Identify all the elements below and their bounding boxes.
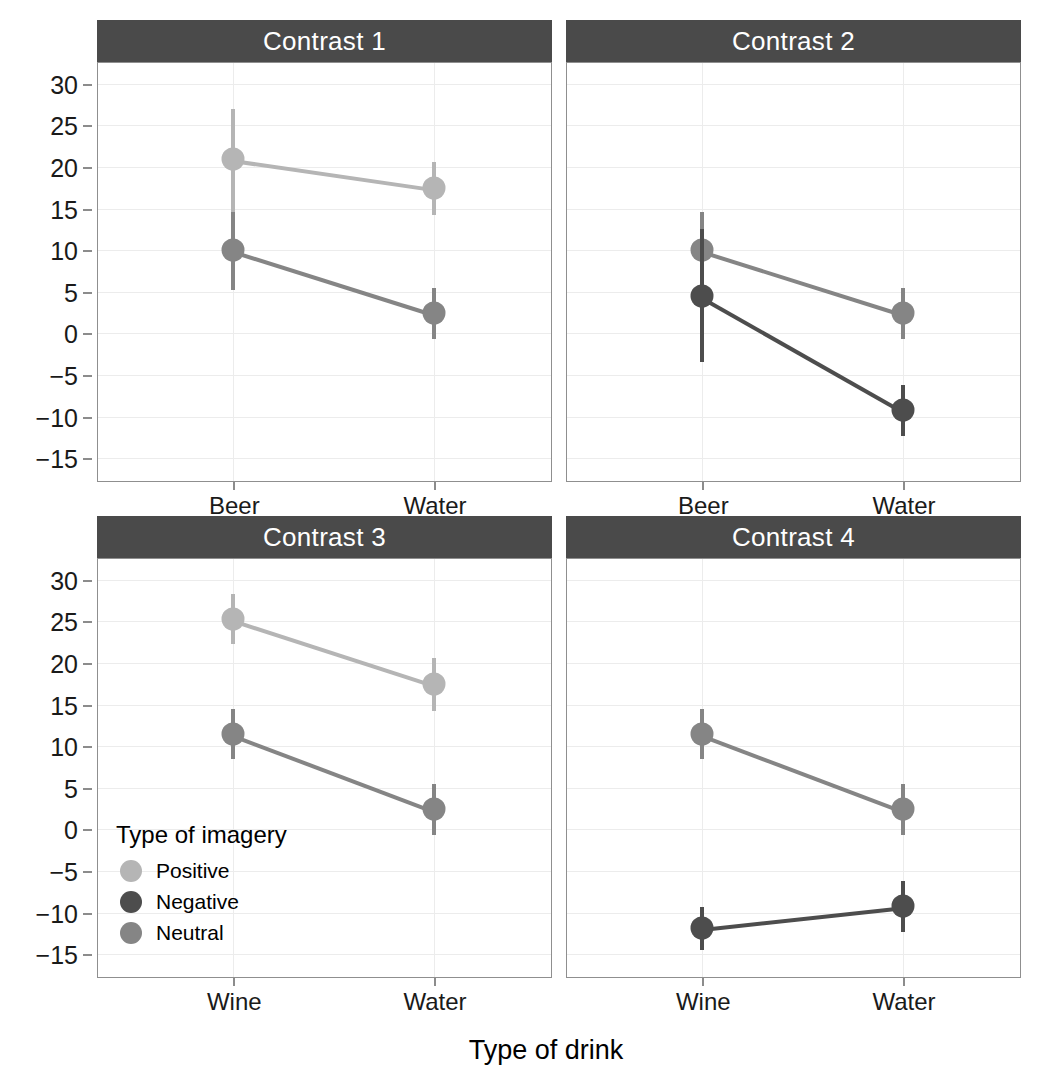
gridline-horizontal — [567, 663, 1020, 664]
gridline-horizontal — [567, 292, 1020, 293]
gridline-horizontal — [98, 375, 551, 376]
x-tick-label: Beer — [678, 492, 729, 520]
y-tick-label: 10 — [50, 733, 78, 762]
y-tick-mark — [83, 621, 92, 623]
y-tick-label: 5 — [64, 774, 78, 803]
data-point-neutral[interactable] — [422, 798, 445, 821]
data-point-neutral[interactable] — [891, 798, 914, 821]
gridline-horizontal — [567, 84, 1020, 85]
y-tick-mark — [83, 580, 92, 582]
y-tick-label: −10 — [36, 899, 78, 928]
x-axis-title: Type of drink — [46, 1032, 1046, 1068]
x-axis-labels: WineWater — [97, 982, 552, 1016]
x-axis-labels: WineWater — [566, 982, 1021, 1016]
x-tick-label: Water — [403, 988, 466, 1016]
gridline-horizontal — [98, 417, 551, 418]
x-tick-label: Beer — [209, 492, 260, 520]
y-tick-label: 25 — [50, 608, 78, 637]
data-point-negative[interactable] — [691, 916, 714, 939]
legend-key-swatch-icon — [116, 887, 146, 917]
x-tick-mark — [233, 482, 235, 490]
legend: Type of imageryPositiveNegativeNeutral — [116, 821, 287, 948]
gridline-horizontal — [98, 209, 551, 210]
gridline-horizontal — [98, 125, 551, 126]
facet-strip: Contrast 2 — [566, 20, 1021, 62]
y-tick-mark — [83, 788, 92, 790]
series-line-neutral — [232, 250, 434, 317]
legend-item-positive[interactable]: Positive — [116, 855, 287, 886]
x-tick-label: Water — [872, 988, 935, 1016]
facet-strip-label: Contrast 1 — [263, 26, 386, 57]
data-point-positive[interactable] — [222, 607, 245, 630]
gridline-horizontal — [567, 417, 1020, 418]
gridline-horizontal — [98, 84, 551, 85]
x-axis-labels: BeerWater — [97, 486, 552, 520]
y-tick-mark — [83, 913, 92, 915]
series-line-negative — [700, 296, 903, 413]
data-point-neutral[interactable] — [222, 722, 245, 745]
legend-item-label: Neutral — [156, 921, 224, 945]
gridline-horizontal — [567, 333, 1020, 334]
gridline-horizontal — [98, 663, 551, 664]
gridline-horizontal — [567, 871, 1020, 872]
gridline-horizontal — [567, 954, 1020, 955]
y-tick-mark — [83, 871, 92, 873]
gridline-horizontal — [567, 746, 1020, 747]
facet-strip: Contrast 1 — [97, 20, 552, 62]
legend-item-negative[interactable]: Negative — [116, 886, 287, 917]
gridline-horizontal — [98, 167, 551, 168]
x-tick-mark — [702, 482, 704, 490]
x-tick-label: Water — [872, 492, 935, 520]
y-tick-label: 15 — [50, 691, 78, 720]
gridline-horizontal — [567, 580, 1020, 581]
data-point-neutral[interactable] — [891, 302, 914, 325]
y-tick-label: 0 — [64, 816, 78, 845]
plot-area — [566, 558, 1021, 978]
data-point-neutral[interactable] — [422, 302, 445, 325]
legend-item-neutral[interactable]: Neutral — [116, 917, 287, 948]
gridline-horizontal — [567, 375, 1020, 376]
gridline-horizontal — [567, 829, 1020, 830]
legend-item-label: Negative — [156, 890, 239, 914]
x-tick-mark — [434, 978, 436, 986]
x-tick-label: Wine — [207, 988, 262, 1016]
legend-key-swatch-icon — [116, 918, 146, 948]
data-point-positive[interactable] — [422, 672, 445, 695]
y-tick-mark — [83, 746, 92, 748]
x-axis-labels: BeerWater — [566, 486, 1021, 520]
facet-strip: Contrast 4 — [566, 516, 1021, 558]
gridline-horizontal — [567, 788, 1020, 789]
data-point-negative[interactable] — [691, 284, 714, 307]
legend-key-swatch-icon — [116, 856, 146, 886]
series-line-neutral — [701, 250, 903, 317]
gridline-horizontal — [567, 167, 1020, 168]
y-tick-label: −5 — [49, 858, 78, 887]
x-tick-label: Water — [403, 492, 466, 520]
x-tick-mark — [434, 482, 436, 490]
chart-root: Mean attitude rating Type of drink 30252… — [0, 0, 1046, 1082]
gridline-horizontal — [98, 705, 551, 706]
gridline-horizontal — [567, 621, 1020, 622]
y-tick-mark — [83, 829, 92, 831]
data-point-positive[interactable] — [222, 147, 245, 170]
x-tick-mark — [702, 978, 704, 986]
data-point-negative[interactable] — [891, 398, 914, 421]
data-point-positive[interactable] — [422, 176, 445, 199]
data-point-neutral[interactable] — [691, 722, 714, 745]
data-point-neutral[interactable] — [222, 239, 245, 262]
gridline-horizontal — [98, 954, 551, 955]
gridline-horizontal — [98, 746, 551, 747]
y-tick-label: −15 — [36, 941, 78, 970]
gridline-vertical — [434, 63, 435, 481]
series-line-positive — [232, 619, 434, 688]
gridline-horizontal — [98, 458, 551, 459]
gridline-horizontal — [98, 788, 551, 789]
gridline-horizontal — [567, 125, 1020, 126]
legend-title: Type of imagery — [116, 821, 287, 849]
y-tick-mark — [83, 705, 92, 707]
gridline-horizontal — [567, 250, 1020, 251]
gridline-horizontal — [567, 458, 1020, 459]
data-point-negative[interactable] — [891, 894, 914, 917]
gridline-vertical — [434, 559, 435, 977]
gridline-horizontal — [567, 705, 1020, 706]
